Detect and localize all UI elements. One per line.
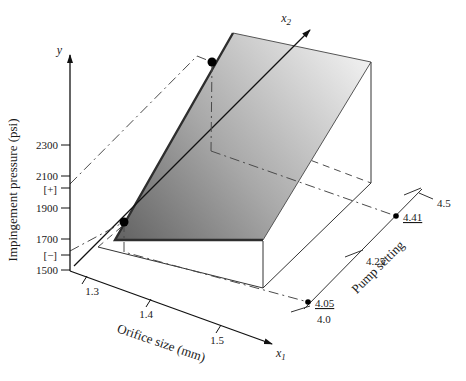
pump-441-dot bbox=[393, 213, 399, 219]
pump-axis-title: Pump setting bbox=[348, 237, 407, 296]
x1-axis-ticks bbox=[82, 276, 221, 333]
y-tick-1900: 1900 bbox=[36, 202, 59, 214]
y-axis-title: Impingement pressure (psi) bbox=[5, 119, 20, 262]
y-axis-tick-labels: 2300 2100 [+] 1900 1700 [−] 1500 bbox=[36, 139, 59, 276]
figure-3d-response-surface: x2 y 2300 2100 [+] 1900 1700 [−] 1500 Im… bbox=[0, 0, 466, 381]
pump-point-label-441: 4.41 bbox=[403, 211, 422, 223]
low-operating-point-dot bbox=[120, 218, 129, 227]
pump-tick-4-0: 4.0 bbox=[317, 313, 331, 325]
y-axis-variable: y bbox=[56, 43, 63, 57]
x1-tick-1-4: 1.4 bbox=[139, 308, 153, 320]
x2-axis-variable: x2 bbox=[280, 11, 291, 27]
pump-tick-4-5: 4.5 bbox=[437, 197, 451, 209]
y-axis-ticks bbox=[61, 145, 70, 270]
y-tick-1700: 1700 bbox=[36, 233, 59, 245]
pump-point-label-405: 4.05 bbox=[315, 297, 335, 309]
x1-tick-1-5: 1.5 bbox=[210, 334, 224, 346]
response-surface-plane bbox=[115, 33, 371, 240]
surface-plot-canvas: x2 y 2300 2100 [+] 1900 1700 [−] 1500 Im… bbox=[0, 0, 466, 381]
high-operating-point-dot bbox=[208, 58, 217, 67]
y-tick-2100: 2100 bbox=[36, 170, 59, 182]
x1-axis bbox=[70, 271, 272, 344]
y-high-level-marker: [+] bbox=[43, 183, 57, 195]
x1-tick-1-3: 1.3 bbox=[85, 285, 99, 297]
pump-405-dot bbox=[305, 299, 311, 305]
y-low-level-marker: [−] bbox=[43, 249, 57, 261]
x1-axis-variable: x1 bbox=[275, 346, 286, 362]
x1-axis-title: Orifice size (mm) bbox=[115, 321, 207, 365]
pump-axis-ticks bbox=[291, 188, 433, 312]
y-tick-1500: 1500 bbox=[36, 264, 59, 276]
y-tick-2300: 2300 bbox=[36, 139, 59, 151]
